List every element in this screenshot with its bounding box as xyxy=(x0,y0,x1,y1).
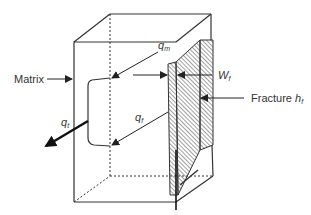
qm-arrow xyxy=(112,52,158,78)
fracture-h-sub: f xyxy=(301,98,303,105)
matrix-label: Matrix xyxy=(14,74,44,85)
wf-label: Wf xyxy=(218,70,230,82)
diagram-canvas xyxy=(0,0,311,215)
qm-label: qm xyxy=(158,40,170,52)
fracture-label: Fracture hf xyxy=(251,93,303,105)
matrix-fracture-diagram: Matrix qm Wf Fracture hf qt qf xyxy=(0,0,311,215)
qf-label: qf xyxy=(135,112,143,124)
fracture-text: Fracture xyxy=(251,92,295,104)
wf-sub: f xyxy=(228,75,230,82)
qt-sub: t xyxy=(67,122,69,129)
fracture-plane xyxy=(168,40,213,210)
qf-sub: f xyxy=(141,117,143,124)
arrows xyxy=(46,52,244,146)
qm-sub: m xyxy=(164,45,170,52)
wf-base: W xyxy=(218,69,228,81)
qt-label: qt xyxy=(61,117,69,129)
flow-path xyxy=(88,78,110,146)
